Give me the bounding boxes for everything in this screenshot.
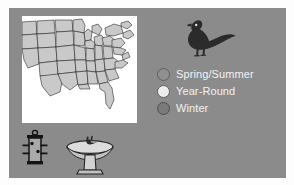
pigeon-silhouette-icon bbox=[182, 14, 240, 60]
feeder-base bbox=[27, 161, 43, 164]
feeder-hook bbox=[32, 130, 37, 135]
bath-pedestal bbox=[84, 155, 96, 170]
leg-front bbox=[194, 49, 200, 57]
feeder-tube bbox=[29, 138, 41, 162]
bath-foot bbox=[77, 170, 103, 174]
beak bbox=[187, 23, 191, 26]
range-map bbox=[22, 16, 137, 123]
legend-item-spring-summer[interactable]: Spring/Summer bbox=[157, 66, 282, 82]
tube-bird-feeder-icon bbox=[20, 126, 50, 174]
range-legend: Spring/Summer Year-Round Winter bbox=[157, 66, 282, 117]
legend-swatch-winter bbox=[157, 102, 170, 115]
legend-label-year-round: Year-Round bbox=[176, 86, 235, 97]
legend-label-spring-summer: Spring/Summer bbox=[176, 69, 254, 80]
pigeon-body bbox=[187, 20, 235, 56]
legend-swatch-spring-summer bbox=[157, 68, 170, 81]
legend-label-winter: Winter bbox=[176, 103, 208, 114]
bird-range-infographic: Spring/Summer Year-Round Winter bbox=[0, 0, 294, 185]
legend-item-year-round[interactable]: Year-Round bbox=[157, 83, 282, 99]
legend-item-winter[interactable]: Winter bbox=[157, 100, 282, 116]
pedestal-birdbath-icon bbox=[64, 134, 116, 176]
legend-swatch-year-round bbox=[157, 85, 170, 98]
bird-eye bbox=[195, 24, 197, 26]
